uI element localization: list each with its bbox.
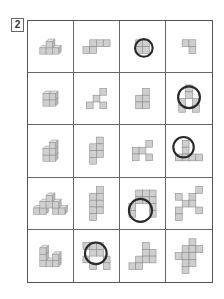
top-view-figure [120, 125, 165, 176]
top-view-figure [74, 73, 119, 124]
top-view-figure [166, 125, 212, 176]
figure-cell [120, 230, 166, 282]
cube-stack-figure [28, 178, 73, 229]
figure-cell [74, 73, 120, 125]
figure-cell [166, 230, 212, 282]
top-view-figure [74, 178, 119, 229]
top-view-figure [74, 21, 119, 72]
figure-cell [120, 73, 166, 125]
figure-cell [74, 21, 120, 73]
cube-stack-figure [28, 125, 73, 176]
figure-cell [28, 178, 74, 230]
figure-cell-circled [74, 230, 120, 282]
top-view-figure [166, 21, 212, 72]
figure-grid [27, 20, 213, 283]
top-view-figure [74, 125, 119, 176]
figure-cell [28, 125, 74, 177]
top-view-figure [120, 230, 165, 282]
top-view-figure [120, 178, 165, 229]
figure-cell [166, 21, 212, 73]
cube-stack-figure [28, 21, 73, 72]
top-view-figure [120, 21, 165, 72]
top-view-figure [166, 73, 212, 124]
figure-cell-circled [120, 178, 166, 230]
figure-cell [28, 230, 74, 282]
figure-cell-circled [120, 21, 166, 73]
figure-cell [120, 125, 166, 177]
figure-cell [74, 125, 120, 177]
top-view-figure [74, 230, 119, 282]
cube-stack-figure [28, 230, 73, 282]
figure-cell [28, 21, 74, 73]
figure-cell-circled [166, 125, 212, 177]
figure-cell [166, 178, 212, 230]
figure-cell [74, 178, 120, 230]
cube-stack-figure [28, 73, 73, 124]
top-view-figure [166, 230, 212, 282]
top-view-figure [120, 73, 165, 124]
figure-cell [28, 73, 74, 125]
figure-cell-circled [166, 73, 212, 125]
question-number: 2 [11, 18, 24, 32]
top-view-figure [166, 178, 212, 229]
